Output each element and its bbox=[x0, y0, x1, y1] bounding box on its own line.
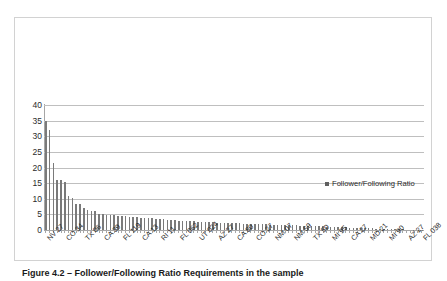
bar bbox=[220, 223, 222, 230]
bar bbox=[201, 222, 203, 230]
x-tick-mark bbox=[406, 230, 407, 233]
y-axis-labels: 0510152025303540 bbox=[17, 18, 42, 281]
bar bbox=[45, 121, 47, 230]
bar bbox=[178, 221, 180, 230]
chart-frame: 0510152025303540 NV 27CO 34TX 06CA 39FL … bbox=[14, 17, 432, 261]
x-tick-mark bbox=[330, 230, 331, 233]
bar bbox=[182, 221, 184, 230]
y-axis-tick-label: 20 bbox=[20, 164, 42, 172]
figure-container: 0510152025303540 NV 27CO 34TX 06CA 39FL … bbox=[0, 0, 447, 281]
x-tick-mark bbox=[292, 230, 293, 233]
x-tick-mark bbox=[197, 230, 198, 233]
x-tick-mark bbox=[140, 230, 141, 233]
x-tick-mark bbox=[368, 230, 369, 233]
plot-area bbox=[44, 105, 424, 230]
x-tick-mark bbox=[311, 230, 312, 233]
x-tick-mark bbox=[159, 230, 160, 233]
bar-series bbox=[44, 105, 424, 230]
bar bbox=[106, 215, 108, 230]
y-axis-tick-label: 35 bbox=[20, 117, 42, 125]
bar bbox=[144, 218, 146, 230]
y-axis-tick-label: 15 bbox=[20, 179, 42, 187]
legend-marker-icon bbox=[325, 182, 329, 186]
x-axis-tick-label: FL 038 bbox=[421, 220, 443, 242]
x-tick-mark bbox=[45, 230, 46, 233]
y-axis-tick-label: 40 bbox=[20, 101, 42, 109]
y-axis-tick-label: 5 bbox=[20, 210, 42, 218]
bar bbox=[87, 210, 89, 230]
x-tick-mark bbox=[254, 230, 255, 233]
x-tick-mark bbox=[178, 230, 179, 233]
bar bbox=[163, 219, 165, 230]
y-axis-tick-label: 10 bbox=[20, 195, 42, 203]
bar bbox=[64, 182, 66, 230]
bar bbox=[125, 216, 127, 230]
bar bbox=[49, 130, 51, 230]
x-tick-mark bbox=[216, 230, 217, 233]
y-axis-tick-label: 30 bbox=[20, 132, 42, 140]
bar bbox=[68, 196, 70, 230]
x-tick-mark bbox=[64, 230, 65, 233]
x-tick-mark bbox=[102, 230, 103, 233]
x-tick-mark bbox=[83, 230, 84, 233]
x-tick-mark bbox=[235, 230, 236, 233]
y-axis-tick-label: 25 bbox=[20, 148, 42, 156]
x-tick-mark bbox=[121, 230, 122, 233]
bar bbox=[53, 163, 55, 230]
bar-slot bbox=[420, 105, 424, 230]
y-axis-tick-label: 0 bbox=[20, 226, 42, 234]
figure-caption: Figure 4.2 – Follower/Following Ratio Re… bbox=[22, 268, 442, 278]
x-tick-mark bbox=[387, 230, 388, 233]
x-tick-mark bbox=[349, 230, 350, 233]
x-tick-mark bbox=[273, 230, 274, 233]
chart-legend: Follower/Following Ratio bbox=[325, 179, 415, 188]
legend-label: Follower/Following Ratio bbox=[332, 179, 415, 188]
